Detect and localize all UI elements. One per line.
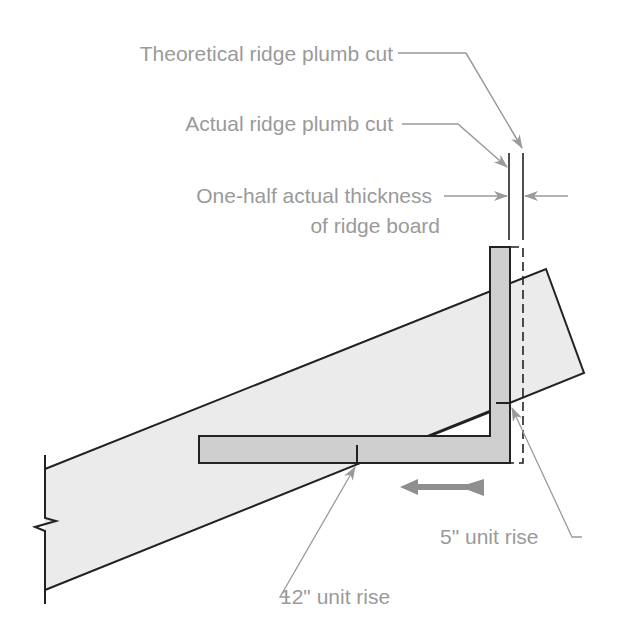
label-theoretical-cut: Theoretical ridge plumb cut (140, 42, 393, 65)
label-half-thickness-1: One-half actual thickness (196, 184, 432, 207)
label-five-inch-rise: 5" unit rise (440, 525, 539, 548)
label-actual-cut: Actual ridge plumb cut (185, 112, 393, 135)
rafter-ridge-cut-diagram: Theoretical ridge plumb cut Actual ridge… (0, 0, 622, 632)
label-twelve-inch-rise: 12" unit rise (280, 585, 390, 608)
slide-direction-arrow (400, 479, 484, 496)
actual-cut-leader (402, 124, 507, 167)
five-inch-leader (512, 408, 582, 537)
label-half-thickness-2: of ridge board (310, 214, 440, 237)
theoretical-cut-leader (398, 53, 522, 148)
